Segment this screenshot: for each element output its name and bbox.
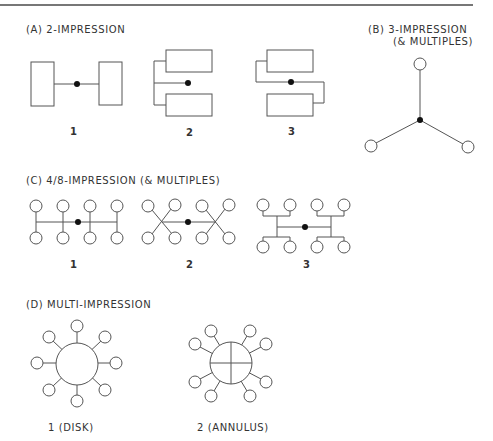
diagram-c3	[257, 199, 350, 253]
diagram-d1-disk	[31, 320, 122, 407]
diagram-d2-annulus	[189, 325, 272, 402]
diagram-c2	[142, 199, 235, 244]
layout-diagrams	[0, 0, 493, 441]
diagram-b	[365, 58, 474, 153]
diagram-a1	[31, 62, 122, 106]
diagram-c1	[30, 200, 123, 244]
diagram-a2	[154, 50, 212, 116]
diagram-a3	[256, 50, 324, 116]
